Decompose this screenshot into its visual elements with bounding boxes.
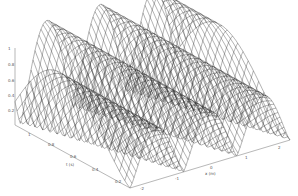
x-axis-label: x (m)	[205, 171, 216, 176]
z-tick: 0.4	[8, 93, 15, 98]
z-tick-labels: 1 0.8 0.6 0.4 0.2	[8, 46, 15, 113]
x-tick: 2	[278, 145, 281, 150]
z-tick: 0.6	[8, 78, 15, 83]
z-tick: 0.8	[8, 62, 15, 67]
y-tick: 1	[28, 132, 31, 137]
y-tick: 0.4	[92, 167, 99, 172]
x-tick: 1	[245, 155, 248, 160]
y-tick: 0.8	[48, 142, 55, 147]
z-tick: 0.2	[8, 108, 15, 113]
x-tick: -1	[175, 176, 179, 181]
x-tick: -2	[140, 186, 144, 191]
x-tick: 0	[210, 165, 213, 170]
wireframe-mesh	[15, 0, 290, 188]
y-tick: 0.2	[115, 179, 122, 184]
x-tick-labels: -2 -1 0 1 2 x (m)	[140, 145, 281, 191]
z-tick: 1	[8, 46, 11, 51]
y-tick: 0.6	[70, 154, 77, 159]
x-axis	[130, 140, 290, 188]
surface-plot: 1 0.8 0.6 0.4 0.2 1 0.8 0.6 0.4 0.2 t (s…	[0, 0, 298, 196]
y-axis-label: t (s)	[66, 162, 74, 167]
